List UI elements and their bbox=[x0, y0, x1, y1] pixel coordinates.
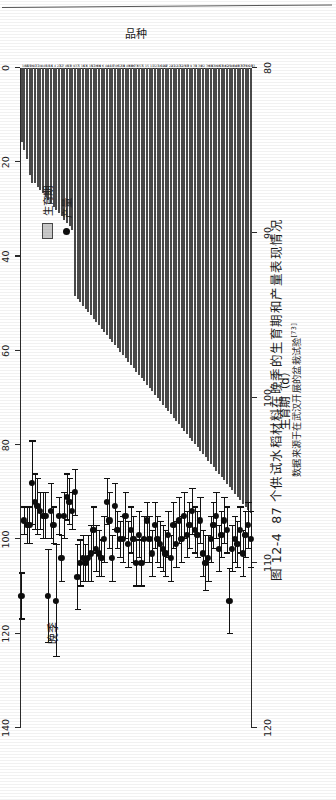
figure-caption: 图 12-487 个供试水稻材料在晚季的生育期和产量表现情况 bbox=[266, 15, 285, 785]
yield-tick-label: 120 bbox=[0, 625, 11, 643]
rotated-page-content: 产量（g/盆） 生育期（d） 品种 020406080100120140 809… bbox=[8, 15, 328, 785]
season-annotation: 晚季 bbox=[44, 622, 60, 644]
category-label: 9 bbox=[195, 64, 197, 68]
yield-tick-label: 40 bbox=[0, 251, 11, 263]
duration-tick bbox=[252, 232, 257, 233]
category-label: 7 bbox=[62, 64, 64, 68]
yield-tick-label: 80 bbox=[0, 439, 11, 451]
yield-tick-label: 20 bbox=[0, 156, 11, 168]
chart-legend: 生育期 产量 bbox=[40, 186, 78, 239]
figure-number: 图 12-4 bbox=[269, 533, 284, 581]
category-label: 5 bbox=[147, 64, 149, 68]
category-label: 3 bbox=[187, 64, 189, 68]
page-top-rule bbox=[2, 4, 332, 8]
duration-tick bbox=[252, 397, 257, 398]
legend-item-duration: 生育期 bbox=[40, 186, 55, 239]
figure-source-note: 数据来源于在武汉开展的盆栽试验[73] bbox=[289, 15, 303, 785]
figure-title: 87 个供试水稻材料在晚季的生育期和产量表现情况 bbox=[269, 219, 284, 524]
bar-swatch-icon bbox=[42, 223, 53, 239]
category-label: 7 bbox=[166, 64, 168, 68]
duration-tick bbox=[252, 727, 257, 728]
category-label: 5 bbox=[78, 64, 80, 68]
category-label: 6 bbox=[51, 64, 53, 68]
duration-tick bbox=[252, 562, 257, 563]
category-label: 33 bbox=[251, 64, 255, 68]
category-label: 4 bbox=[54, 64, 56, 68]
category-axis-title: 品种 bbox=[125, 25, 147, 41]
category-label: 6 bbox=[86, 64, 88, 68]
category-label: 6 bbox=[102, 64, 104, 68]
legend-label-duration: 生育期 bbox=[40, 186, 55, 216]
category-label: 5 bbox=[142, 64, 144, 68]
yield-tick-label: 0 bbox=[0, 65, 11, 71]
source-reference: [73] bbox=[290, 323, 298, 338]
scanned-figure-page: 产量（g/盆） 生育期（d） 品种 020406080100120140 809… bbox=[0, 0, 336, 800]
legend-label-yield: 产量 bbox=[59, 198, 74, 218]
category-label: 2 bbox=[203, 64, 205, 68]
category-label: 9 bbox=[99, 64, 101, 68]
chart-plot-area: 产量（g/盆） 生育期（d） 品种 020406080100120140 809… bbox=[20, 68, 252, 728]
yield-tick-label: 100 bbox=[0, 530, 11, 548]
category-label: 8 bbox=[123, 64, 125, 68]
yield-tick-label: 140 bbox=[0, 719, 11, 737]
category-label: 8 bbox=[70, 64, 72, 68]
source-note-text: 数据来源于在武汉开展的盆栽试验 bbox=[291, 338, 302, 478]
yield-tick-label: 60 bbox=[0, 345, 11, 357]
legend-item-yield: 产量 bbox=[59, 186, 74, 239]
dot-marker-icon bbox=[63, 229, 70, 236]
category-label: 9 bbox=[190, 64, 192, 68]
